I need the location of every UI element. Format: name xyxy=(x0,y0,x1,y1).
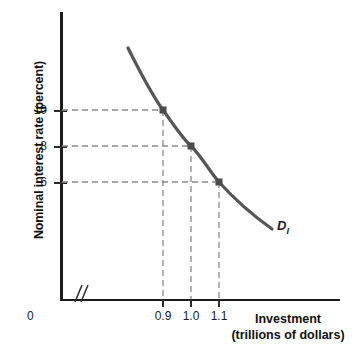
y-axis-title: Nominal interest rate (percent) xyxy=(32,30,46,270)
y-tick-8 xyxy=(54,146,67,148)
origin-label: 0 xyxy=(27,310,34,322)
data-point-marker-c xyxy=(216,179,223,186)
axis-break-icon xyxy=(69,283,91,305)
curve-label-di: DI xyxy=(277,219,289,236)
x-tick-0.9 xyxy=(162,299,164,307)
y-tick-10 xyxy=(54,110,67,112)
x-axis-title: Investment (trillions of dollars) xyxy=(218,312,358,343)
demand-curve-di xyxy=(128,48,272,229)
curve-label-subscript: I xyxy=(286,226,289,236)
investment-demand-chart: 10 8 6 0.9 1.0 1.1 0 Nominal interest ra… xyxy=(0,0,358,354)
x-tick-1.0 xyxy=(190,299,192,307)
x-axis-line xyxy=(60,299,340,302)
data-point-marker-b xyxy=(188,143,195,150)
x-axis-title-line1: Investment xyxy=(255,312,321,326)
x-tick-1.1 xyxy=(218,299,220,307)
curve-label-main: D xyxy=(277,218,286,233)
data-point-marker-a xyxy=(160,107,167,114)
x-axis-title-line2: (trillions of dollars) xyxy=(218,328,358,344)
y-tick-6 xyxy=(54,182,67,184)
y-axis-line xyxy=(60,12,63,301)
